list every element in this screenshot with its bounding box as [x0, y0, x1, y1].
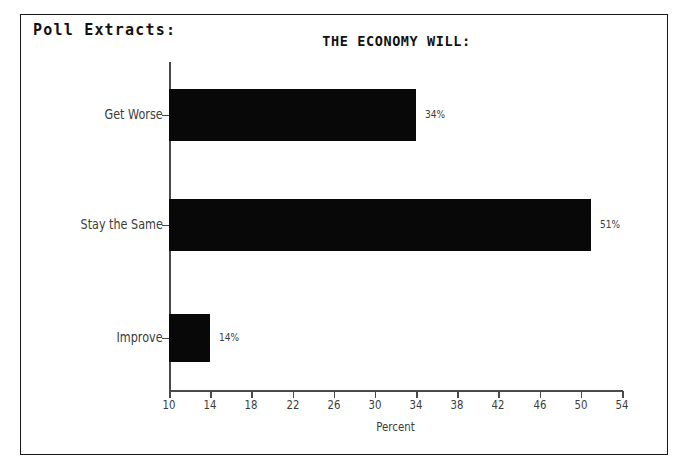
bar-stay-the-same [169, 199, 591, 251]
bar-chart-plot: Get Worse Stay the Same Improve 34% 51% … [0, 0, 688, 471]
x-axis-tick-label: 54 [610, 397, 633, 412]
x-axis-tick-label: 30 [363, 397, 386, 412]
category-label-wrapper: Improve [0, 329, 163, 347]
bar-value-label: 34% [425, 108, 445, 121]
x-axis-line [169, 390, 623, 392]
x-axis-title-text: Percent [377, 419, 416, 434]
x-axis-tick-label: 18 [240, 397, 263, 412]
category-label: Get Worse [105, 106, 163, 122]
bar-value-label: 51% [600, 218, 620, 231]
x-axis-tick-label: 34 [404, 397, 427, 412]
bar-value-label: 14% [219, 331, 239, 344]
x-axis-tick-label: 38 [446, 397, 469, 412]
bar-improve [169, 314, 210, 362]
x-axis-tick-label: 46 [528, 397, 551, 412]
category-label-wrapper: Stay the Same [0, 216, 163, 234]
x-axis-tick-label: 42 [487, 397, 510, 412]
x-axis-tick-label: 50 [569, 397, 592, 412]
category-label: Stay the Same [81, 216, 163, 232]
x-axis-tick-label: 26 [322, 397, 345, 412]
category-label-wrapper: Get Worse [0, 106, 163, 124]
x-axis-tick-label: 22 [281, 397, 304, 412]
category-label: Improve [117, 329, 163, 345]
x-axis-tick-label: 14 [198, 397, 221, 412]
x-axis-tick-label: 10 [157, 397, 180, 412]
x-axis-title: Percent [169, 419, 623, 434]
bar-get-worse [169, 89, 416, 141]
